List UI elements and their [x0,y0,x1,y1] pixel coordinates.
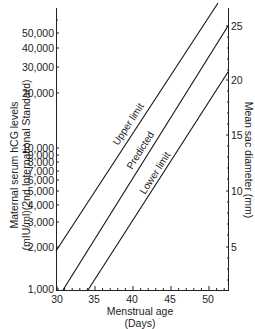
x-axis-units: (Days) [125,317,156,329]
left-y-axis-units: (mIU/ml)(2nd International Standard) [20,80,32,251]
x-ticks [57,286,224,290]
tick-r-10: 10 [231,185,243,197]
tick-30000: 30,000 [22,61,54,73]
right-y-tick-labels: 5 10 15 20 25 [231,20,243,253]
tick-x-35: 35 [88,293,100,305]
tick-x-30: 30 [51,293,63,305]
tick-x-40: 40 [126,293,138,305]
tick-x-45: 45 [164,293,176,305]
right-y-axis-title: Mean sac diameter (mm) [243,102,255,219]
tick-r-25: 25 [231,20,243,32]
tick-x-50: 50 [202,293,214,305]
tick-r-20: 20 [231,74,243,86]
tick-50000: 50,000 [22,27,54,39]
x-axis-title: Menstrual age [107,305,174,317]
tick-r-5: 5 [231,241,237,253]
tick-40000: 40,000 [22,42,54,54]
x-tick-labels: 30 35 40 45 50 [51,293,214,305]
chart: 1,000 2,000 3,000 4,000 5,000 6,000 7,00… [0,0,255,329]
predicted-label: Predicted [124,129,156,171]
lower-limit-label: Lower limit [137,150,172,196]
predicted-line [63,26,228,290]
lower-limit-line [88,72,228,290]
left-y-axis-title: Maternal serum hCG levels [8,101,20,228]
tick-r-15: 15 [231,129,243,141]
